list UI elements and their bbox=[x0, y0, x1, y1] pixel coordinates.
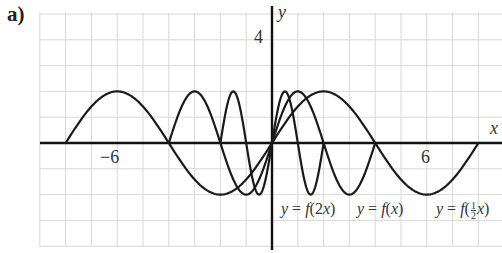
curve-label-fhalfx: y = f(12x) bbox=[436, 200, 489, 220]
plot-area bbox=[0, 0, 502, 253]
x-tick-label-neg6: −6 bbox=[100, 147, 119, 168]
x-tick-label-6: 6 bbox=[421, 147, 430, 168]
part-label: a) bbox=[7, 2, 25, 27]
curve-label-f2x: y = f(2x) bbox=[281, 200, 335, 218]
curve-label-fx: y = f(x) bbox=[357, 200, 403, 218]
y-axis-name: y bbox=[278, 2, 286, 23]
axes bbox=[40, 6, 502, 250]
graph-figure: a) y x 4 −6 6 y = f(2x) y = f(x) y = f(1… bbox=[0, 0, 502, 253]
y-tick-label-4: 4 bbox=[254, 27, 263, 48]
one-half-fraction: 12 bbox=[471, 201, 476, 220]
x-axis-name: x bbox=[490, 118, 498, 139]
